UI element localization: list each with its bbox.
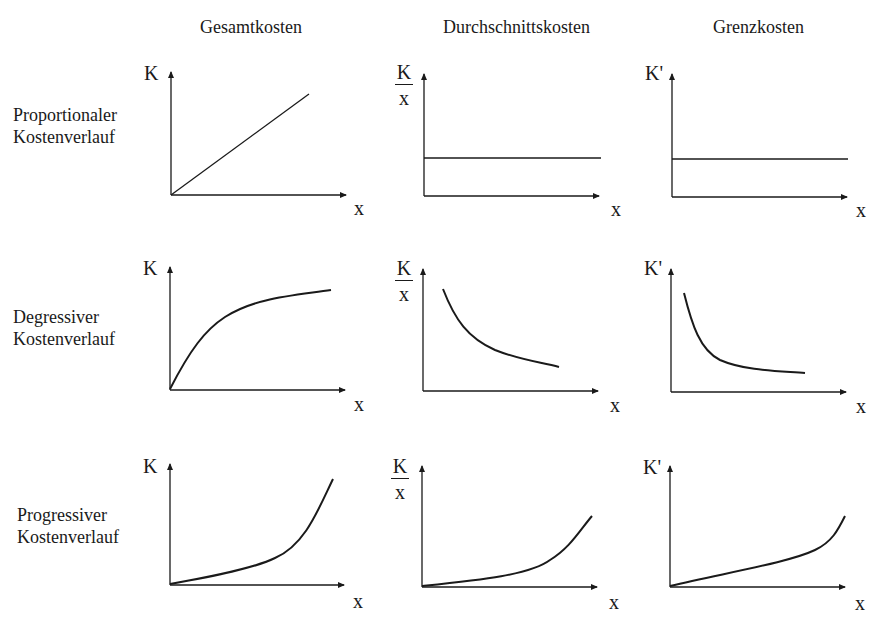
plot-proportional-gesamtkosten <box>171 72 346 195</box>
plot-progressiv-durchschnittskosten <box>422 466 597 587</box>
plot-progressiv-grenzkosten <box>670 466 845 587</box>
plot-degressiv-grenzkosten <box>671 269 846 392</box>
plot-degressiv-durchschnittskosten <box>423 269 598 391</box>
plot-progressiv-gesamtkosten <box>170 464 344 585</box>
plot-proportional-grenzkosten <box>672 74 848 197</box>
plot-degressiv-gesamtkosten <box>170 267 345 390</box>
plot-proportional-durchschnittskosten <box>424 74 601 196</box>
cost-curves-diagram <box>0 0 884 627</box>
